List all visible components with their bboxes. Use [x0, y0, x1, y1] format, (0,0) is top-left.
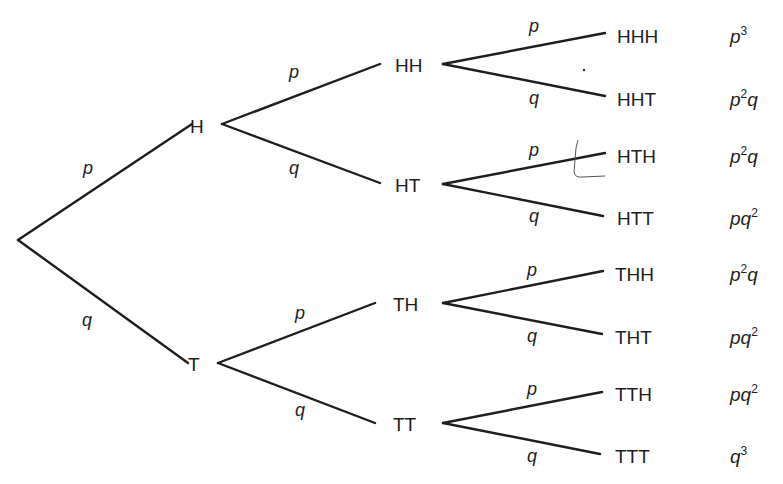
tree-lines	[0, 0, 783, 484]
probability-tail: q	[747, 264, 758, 285]
node-T: T	[188, 355, 200, 374]
outcome-HHH: HHH	[617, 27, 658, 46]
probability-base: pq	[730, 327, 751, 348]
branch-label-TTT: q	[527, 447, 537, 465]
tree-edges	[18, 33, 605, 454]
branch-label-HH: p	[289, 63, 299, 81]
probability-THT: pq2	[730, 328, 758, 347]
probability-HTT: pq2	[730, 209, 758, 228]
probability-base: p	[730, 89, 741, 110]
edge-TH-THT	[443, 303, 602, 334]
branch-label-HT: q	[289, 159, 299, 177]
branch-label-HHT: q	[529, 89, 539, 107]
branch-label-HTH: p	[529, 141, 539, 159]
node-H: H	[190, 117, 204, 136]
branch-label-TH: p	[295, 304, 305, 322]
branch-label-H: p	[83, 159, 93, 177]
probability-exponent: 3	[741, 444, 748, 458]
outcome-TTH: TTH	[615, 385, 652, 404]
probability-base: p	[730, 146, 741, 167]
outcome-THT: THT	[615, 328, 652, 347]
outcome-TTT: TTT	[615, 447, 650, 466]
edge-HT-HTT	[443, 184, 603, 216]
probability-exponent: 2	[751, 206, 758, 220]
edge-H-HH	[222, 64, 380, 124]
branch-label-THT: q	[527, 327, 537, 345]
edge-root-H	[18, 124, 192, 240]
node-TH: TH	[393, 295, 418, 314]
probability-base: pq	[730, 384, 751, 405]
probability-base: p	[730, 264, 741, 285]
outcome-HTH: HTH	[617, 147, 656, 166]
edge-TH-THH	[443, 271, 603, 303]
outcome-THH: THH	[615, 265, 654, 284]
probability-tail: q	[747, 89, 758, 110]
probability-HHT: p2q	[730, 90, 758, 109]
probability-base: q	[730, 446, 741, 467]
branch-label-HHH: p	[529, 17, 539, 35]
probability-TTT: q3	[730, 447, 747, 466]
probability-TTH: pq2	[730, 385, 758, 404]
probability-exponent: 2	[751, 325, 758, 339]
edge-TT-TTT	[443, 423, 600, 454]
edge-H-HT	[222, 124, 380, 183]
probability-exponent: 2	[751, 382, 758, 396]
edge-root-T	[18, 240, 188, 363]
edge-HH-HHT	[443, 64, 605, 96]
probability-exponent: 3	[741, 24, 748, 38]
node-HH: HH	[395, 56, 422, 75]
edge-TT-TTH	[443, 392, 602, 423]
node-TT: TT	[393, 415, 416, 434]
edge-HT-HTH	[443, 153, 605, 184]
branch-label-T: q	[82, 311, 92, 329]
probability-HTH: p2q	[730, 147, 758, 166]
branch-label-TTH: p	[527, 380, 537, 398]
edge-HH-HHH	[443, 33, 605, 64]
probability-HHH: p3	[730, 27, 747, 46]
probability-tail: q	[747, 146, 758, 167]
node-HT: HT	[395, 176, 420, 195]
probability-THH: p2q	[730, 265, 758, 284]
outcome-HTT: HTT	[617, 209, 654, 228]
outcome-HHT: HHT	[617, 90, 656, 109]
branch-label-THH: p	[527, 261, 537, 279]
probability-base: p	[730, 26, 741, 47]
branch-label-HTT: q	[529, 207, 539, 225]
pen-mark	[574, 69, 605, 177]
probability-base: pq	[730, 208, 751, 229]
branch-label-TT: q	[295, 401, 305, 419]
